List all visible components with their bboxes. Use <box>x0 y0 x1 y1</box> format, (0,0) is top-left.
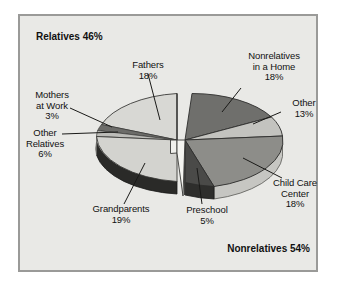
figure-canvas: Relatives 46% Nonrelatives 54% Fathers 1… <box>0 0 341 288</box>
group-label-nonrelatives: Nonrelatives 54% <box>190 244 310 255</box>
slice-label-preschool: Preschool 5% <box>176 205 238 226</box>
slice-label-mothers-at-work: Mothers at Work 3% <box>20 90 84 122</box>
slice-label-fathers: Fathers 18% <box>113 60 183 81</box>
slice-label-child-care-center: Child Care Center 18% <box>258 178 332 210</box>
slice-label-nonrelatives-in-a-home: Nonrelatives in a Home 18% <box>232 51 316 83</box>
slice-label-other-relatives: Other Relatives 6% <box>12 128 78 160</box>
group-label-relatives: Relatives 46% <box>36 32 156 43</box>
gap-wedge-white <box>177 140 185 196</box>
slice-label-other: Other 13% <box>276 98 332 119</box>
slice-label-grandparents: Grandparents 19% <box>74 204 168 225</box>
gap-left-face <box>171 140 178 154</box>
